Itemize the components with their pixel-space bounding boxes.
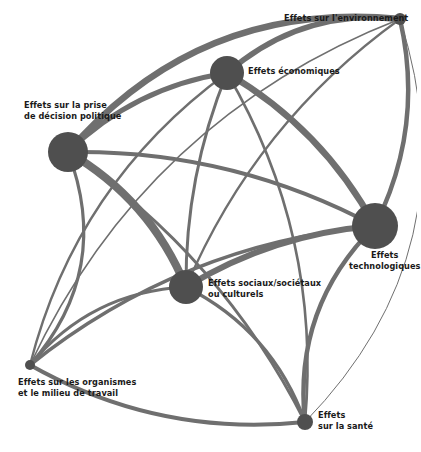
edge-economiques-technologiques [227,73,375,226]
edge-organismes-sante [30,365,305,425]
edge-environnement-economiques [227,17,400,73]
edge-technologiques-sante [303,226,375,422]
node-organismes[interactable] [25,360,35,370]
edge-sociaux-organismes [30,287,186,365]
node-politique[interactable] [48,132,88,172]
node-technologiques[interactable] [352,203,398,249]
node-economiques[interactable] [210,56,244,90]
edge-environnement-technologiques [375,19,408,226]
edge-sociaux-sante [186,287,305,422]
node-sante[interactable] [297,414,313,430]
edge-economiques-sociaux [186,73,227,287]
node-environnement[interactable] [394,13,406,25]
node-sociaux[interactable] [169,270,203,304]
